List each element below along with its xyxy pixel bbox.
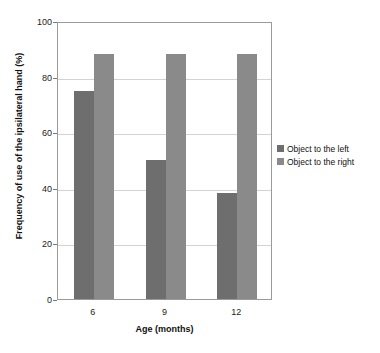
- legend-item: Object to the right: [277, 156, 377, 167]
- bar: [166, 54, 186, 299]
- legend-item-label: Object to the right: [287, 157, 354, 167]
- bar: [237, 54, 257, 299]
- y-axis-tick-label: 60: [28, 129, 52, 138]
- x-axis-tick-label: 9: [145, 306, 185, 318]
- y-axis-tick-labels: 020406080100: [26, 0, 52, 353]
- y-axis-title: Frequency of use of the ipsilateral hand…: [12, 0, 26, 296]
- y-axis-tick-label: 0: [28, 296, 52, 305]
- legend-swatch-icon: [277, 158, 284, 165]
- bars-layer: [58, 23, 271, 299]
- x-axis-tick-labels: 6912: [57, 306, 272, 320]
- bar: [217, 193, 237, 299]
- bar: [94, 54, 114, 299]
- bar: [146, 160, 166, 299]
- bar: [74, 91, 94, 300]
- legend-item-label: Object to the left: [287, 144, 349, 154]
- x-axis-tick-label: 12: [216, 306, 256, 318]
- x-axis-tick-label: 6: [73, 306, 113, 318]
- legend-item: Object to the left: [277, 143, 377, 154]
- bar-chart-figure: Frequency of use of the ipsilateral hand…: [0, 0, 380, 353]
- x-axis-title: Age (months): [57, 324, 272, 334]
- legend-swatch-icon: [277, 145, 284, 152]
- y-axis-tick-mark: [53, 300, 57, 301]
- y-axis-tick-label: 80: [28, 74, 52, 83]
- y-axis-tick-label: 100: [28, 18, 52, 27]
- y-axis-tick-label: 40: [28, 185, 52, 194]
- chart-legend: Object to the leftObject to the right: [277, 143, 377, 169]
- plot-area: [57, 22, 272, 300]
- y-axis-tick-label: 20: [28, 240, 52, 249]
